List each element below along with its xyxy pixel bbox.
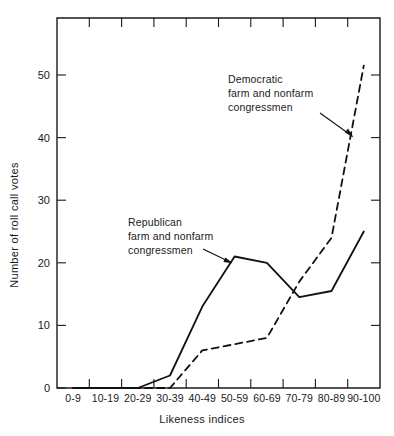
- chart-figure: 0 10 20 30 40 50: [0, 0, 394, 436]
- x-axis-tick-labels: 0-9 10-19 20-29 30-39 40-49 50-59 60-69 …: [65, 392, 380, 404]
- annotation-republican-line-3: congressmen: [128, 244, 193, 256]
- annotation-republican: Republican farm and nonfarm congressmen: [128, 216, 233, 263]
- x-tick-label-1: 10-19: [92, 392, 119, 404]
- annotation-democratic-line-3: congressmen: [228, 101, 293, 113]
- annotation-republican-line-2: farm and nonfarm: [128, 230, 213, 242]
- annotation-democratic-arrow-icon: [345, 129, 354, 138]
- y-tick-label-30: 30: [38, 194, 50, 206]
- y-axis-tick-labels: 0 10 20 30 40 50: [38, 69, 50, 394]
- y-tick-label-0: 0: [44, 382, 50, 394]
- annotation-republican-line-1: Republican: [128, 216, 182, 228]
- x-tick-label-6: 60-69: [253, 392, 280, 404]
- y-tick-label-50: 50: [38, 69, 50, 81]
- x-tick-label-0: 0-9: [65, 392, 81, 404]
- x-tick-label-4: 40-49: [189, 392, 216, 404]
- annotation-democratic-line-2: farm and nonfarm: [228, 87, 313, 99]
- series-line-democratic: [73, 66, 364, 388]
- x-tick-label-5: 50-59: [221, 392, 248, 404]
- annotation-democratic: Democratic farm and nonfarm congressmen: [228, 73, 354, 138]
- series-line-republican: [73, 232, 364, 389]
- annotation-democratic-line-1: Democratic: [228, 73, 283, 85]
- x-tick-label-8: 80-89: [318, 392, 345, 404]
- x-tick-label-7: 70-79: [286, 392, 313, 404]
- plot-frame: [57, 18, 380, 388]
- x-axis-title: Likeness indices: [159, 413, 245, 425]
- y-axis-title: Number of roll call votes: [8, 162, 20, 288]
- x-axis-ticks: [89, 18, 347, 388]
- x-tick-label-3: 30-39: [156, 392, 183, 404]
- y-tick-label-20: 20: [38, 257, 50, 269]
- y-tick-label-10: 10: [38, 319, 50, 331]
- x-tick-label-9: 90-100: [347, 392, 380, 404]
- chart-svg: 0 10 20 30 40 50: [0, 0, 394, 436]
- y-tick-label-40: 40: [38, 132, 50, 144]
- x-tick-label-2: 20-29: [124, 392, 151, 404]
